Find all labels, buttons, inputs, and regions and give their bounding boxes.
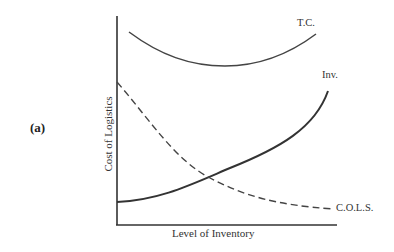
inventory-cost-curve <box>117 91 328 202</box>
panel-label: (a) <box>30 120 45 136</box>
inventory-curve-label: Inv. <box>322 69 338 80</box>
y-axis-label: Cost of Logistics <box>102 96 114 171</box>
x-axis-label: Level of Inventory <box>172 227 254 239</box>
cost-curves-plot <box>0 0 394 252</box>
tc-curve-label: T.C. <box>297 17 315 28</box>
cols-curve-label: C.O.L.S. <box>336 202 373 213</box>
cost-of-lost-sales-curve <box>117 82 334 209</box>
tc-curve <box>129 32 316 66</box>
